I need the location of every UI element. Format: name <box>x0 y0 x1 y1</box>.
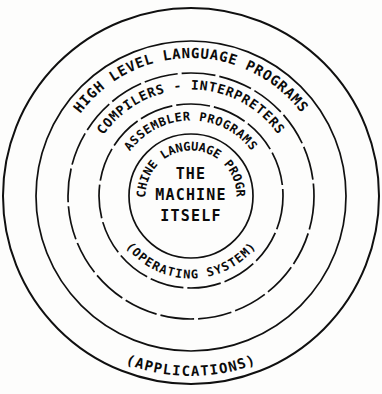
ring-high-level-language-label-text: HIGH LEVEL LANGUAGE PROGRAMS <box>70 45 312 116</box>
ring-compilers-interpreters-label: COMPILERS - INTERPRETERS <box>94 77 288 137</box>
ring-applications-label: (APPLICATIONS) <box>124 351 258 379</box>
ring-applications-label-text: (APPLICATIONS) <box>124 351 258 379</box>
ring-high-level-language-label: HIGH LEVEL LANGUAGE PROGRAMS <box>70 45 312 116</box>
core-text-group: THE MACHINE ITSELF <box>155 165 227 225</box>
core-line-the: THE <box>176 165 207 183</box>
core-line-machine: MACHINE <box>155 186 227 204</box>
onion-diagram: (APPLICATIONS)HIGH LEVEL LANGUAGE PROGRA… <box>0 0 382 394</box>
ring-compilers-interpreters-label-text: COMPILERS - INTERPRETERS <box>94 77 288 137</box>
core-line-itself: ITSELF <box>160 207 221 225</box>
onion-diagram-canvas: (APPLICATIONS)HIGH LEVEL LANGUAGE PROGRA… <box>0 0 382 394</box>
